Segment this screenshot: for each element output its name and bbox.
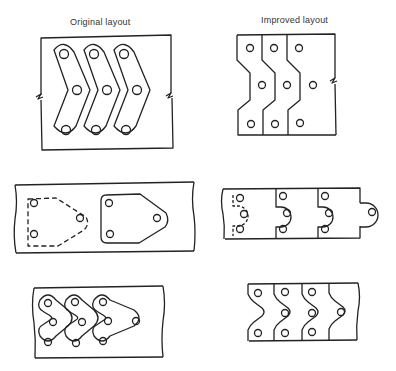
pentagon-plate xyxy=(101,194,168,243)
original-curved-link-strip xyxy=(36,35,173,150)
improved-curved-link-strip xyxy=(237,34,337,135)
curved-link xyxy=(54,44,90,134)
layout-diagram xyxy=(0,0,396,371)
improved-pentagon-plate-strip xyxy=(222,188,379,239)
chain-link xyxy=(39,295,72,341)
improved-chain-link-strip xyxy=(248,283,360,341)
original-pentagon-plate-strip xyxy=(14,182,195,253)
original-chain-link-strip xyxy=(33,286,165,358)
